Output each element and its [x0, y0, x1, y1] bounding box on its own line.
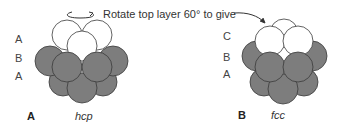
- panel-label-a: A: [27, 110, 35, 122]
- panel-label-b: B: [238, 109, 246, 121]
- hcp-layer-bottom: A: [15, 70, 22, 82]
- hcp-layer-top: A: [15, 33, 22, 45]
- rotation-arrow-icon: [67, 12, 93, 18]
- fcc-spheres: [242, 19, 327, 104]
- caption-fcc: fcc: [271, 109, 285, 121]
- instruction-text: Rotate top layer 60° to give: [103, 8, 236, 20]
- fcc-layer-middle: B: [223, 51, 230, 63]
- curved-arrow-icon: [234, 13, 265, 23]
- fcc-layer-top: C: [223, 30, 231, 42]
- caption-hcp: hcp: [75, 110, 93, 122]
- hcp-spheres: [35, 20, 128, 103]
- fcc-layer-bottom: A: [223, 68, 230, 80]
- hcp-layer-middle: B: [15, 52, 22, 64]
